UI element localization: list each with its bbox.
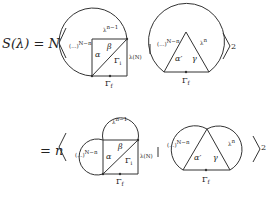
loop-label-left: (...)N−n [75, 149, 98, 158]
edge-alpha-prime [183, 129, 207, 170]
label-alpha-prime: α′ [175, 54, 182, 63]
loop-label-left: (...)N−n [167, 139, 190, 148]
edge-gamma [207, 129, 230, 170]
vertex-dot [126, 38, 128, 40]
lhs-label: S(λ) = N [2, 36, 60, 51]
loop-arc [59, 8, 127, 76]
loop-label-top: λn−1 [103, 24, 118, 33]
top-right-diagram: (...)N−n λn α′ γ Γf [149, 3, 225, 86]
top-left-diagram: (...)N−n λn−1 α β Γi λ(N) Γf [59, 8, 141, 89]
label-alpha: α [95, 50, 101, 59]
label-alpha-prime: α′ [194, 153, 201, 162]
loop-label-right: λn [228, 138, 236, 147]
label-gamma-f: Γf [105, 79, 114, 89]
vertex-dot [185, 71, 187, 73]
vertex-dot [109, 75, 111, 77]
bottom-right-diagram: (...)N−n λn α′ γ Γf [167, 126, 242, 185]
label-alpha: α [106, 152, 112, 161]
loop-label-left: (...)N−n [69, 40, 92, 49]
label-beta: β [117, 142, 123, 151]
label-gamma-i: Γi [114, 56, 122, 66]
label-gamma-i: Γi [125, 156, 133, 166]
loop-label-left: (...)N−n [157, 38, 180, 47]
loop-label-top: λn−1 [112, 116, 127, 125]
loop-label-right: λn [200, 37, 208, 46]
exponent: 2 [261, 143, 266, 152]
right-loop-arc [207, 126, 242, 170]
vertex-dot [102, 173, 104, 175]
loop-arc [149, 3, 225, 72]
bottom-equation: = n (...)N−n λn−1 α β Γi λ(N) Γf [40, 116, 266, 187]
top-equation: S(λ) = N (...)N−n λn−1 α β Γi λ(N) Γf [2, 3, 236, 89]
vertex-dot [119, 173, 121, 175]
label-gamma-f: Γf [202, 175, 211, 185]
right-angle-bracket [253, 136, 260, 162]
diagram-canvas: S(λ) = N (...)N−n λn−1 α β Γi λ(N) Γf [0, 0, 275, 204]
vertex-dot [137, 139, 139, 141]
left-loop-arc [171, 126, 207, 170]
label-side: λ(N) [140, 153, 153, 159]
label-side: λ(N) [129, 54, 142, 60]
label-beta: β [106, 42, 112, 51]
bottom-left-diagram: (...)N−n λn−1 α β Γi λ(N) Γf [75, 116, 153, 187]
exponent: 2 [231, 42, 236, 51]
vertex-dot [91, 75, 93, 77]
label-gamma-f: Γf [116, 177, 125, 187]
label-gamma: γ [213, 153, 218, 162]
label-gamma-f: Γf [182, 76, 191, 86]
label-gamma: γ [192, 54, 197, 63]
vertex-dot [205, 169, 207, 171]
